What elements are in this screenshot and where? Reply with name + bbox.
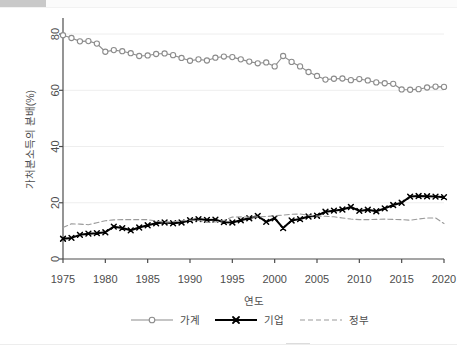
- data-point-marker: [162, 51, 167, 56]
- data-point-marker: [357, 76, 362, 81]
- x-tick-label: 2015: [389, 273, 413, 285]
- data-point-marker: [323, 77, 328, 82]
- axis-lines: [63, 18, 444, 259]
- data-point-marker: [137, 53, 142, 58]
- data-point-marker: [213, 55, 218, 60]
- data-point-marker: [120, 49, 125, 54]
- data-point-marker: [424, 85, 429, 90]
- y-tick-label: 20: [49, 197, 61, 209]
- x-axis-ticks: 1975198019851990199520002005201020152020: [51, 259, 456, 285]
- data-point-marker: [221, 54, 226, 59]
- data-point-marker: [281, 53, 286, 58]
- chart-legend: 가계기업정부: [131, 314, 369, 326]
- x-tick-label: 2005: [305, 273, 329, 285]
- y-tick-label: 0: [49, 256, 61, 262]
- x-axis-title: 연도: [244, 295, 264, 307]
- data-point-marker: [86, 38, 91, 43]
- data-point-marker: [306, 69, 311, 74]
- legend-item-1[interactable]: 가계: [131, 314, 200, 326]
- data-point-marker: [281, 226, 286, 231]
- data-point-marker: [145, 53, 150, 58]
- legend-label: 기업: [264, 314, 284, 326]
- data-point-marker: [340, 76, 345, 81]
- data-point-marker: [348, 78, 353, 83]
- y-tick-label: 60: [49, 84, 61, 96]
- data-point-marker: [441, 84, 446, 89]
- data-point-marker: [204, 58, 209, 63]
- data-point-marker: [179, 55, 184, 60]
- legend-item-3[interactable]: 정부: [300, 314, 369, 326]
- data-point-marker: [272, 64, 277, 69]
- data-series-layer: [60, 33, 446, 242]
- data-point-marker: [408, 87, 413, 92]
- data-point-marker: [238, 57, 243, 62]
- data-point-marker: [255, 61, 260, 66]
- y-axis-title: 가처분소득의 분배(%): [24, 90, 36, 189]
- data-point-marker: [187, 58, 192, 63]
- data-point-marker: [433, 84, 438, 89]
- x-tick-label: 1980: [93, 273, 117, 285]
- data-point-marker: [170, 53, 175, 58]
- x-tick-label: 1975: [51, 273, 75, 285]
- gridlines: [63, 34, 444, 203]
- data-point-marker: [128, 51, 133, 56]
- data-point-marker: [247, 59, 252, 64]
- y-axis-ticks: 020406080: [49, 28, 63, 262]
- data-point-marker: [314, 73, 319, 78]
- data-point-marker: [94, 41, 99, 46]
- y-tick-label: 40: [49, 140, 61, 152]
- data-point-marker: [154, 51, 159, 56]
- y-tick-label: 80: [49, 28, 61, 40]
- legend-marker-circle-icon: [149, 317, 155, 323]
- x-tick-label: 2020: [432, 273, 456, 285]
- x-tick-label: 1985: [135, 273, 159, 285]
- data-point-marker: [196, 57, 201, 62]
- data-point-marker: [399, 87, 404, 92]
- legend-label: 가계: [180, 314, 200, 326]
- data-point-marker: [416, 87, 421, 92]
- legend-label: 정부: [349, 314, 369, 326]
- data-point-marker: [297, 64, 302, 69]
- data-point-marker: [103, 49, 108, 54]
- data-point-marker: [374, 80, 379, 85]
- line-chart-plot: 020406080 197519801985199019952000200520…: [0, 0, 457, 349]
- data-point-marker: [111, 47, 116, 52]
- x-tick-label: 2000: [262, 273, 286, 285]
- data-point-marker: [77, 39, 82, 44]
- x-tick-label: 1990: [178, 273, 202, 285]
- data-point-marker: [289, 59, 294, 64]
- data-point-marker: [69, 35, 74, 40]
- series-1: [60, 33, 446, 93]
- data-point-marker: [264, 60, 269, 65]
- x-tick-label: 2010: [347, 273, 371, 285]
- data-point-marker: [391, 81, 396, 86]
- chart-figure: 020406080 197519801985199019952000200520…: [0, 0, 457, 349]
- data-point-marker: [60, 33, 65, 38]
- data-point-marker: [382, 81, 387, 86]
- data-point-marker: [230, 55, 235, 60]
- x-tick-label: 1995: [220, 273, 244, 285]
- data-point-marker: [331, 76, 336, 81]
- legend-item-2[interactable]: 기업: [215, 314, 284, 326]
- data-point-marker: [365, 78, 370, 83]
